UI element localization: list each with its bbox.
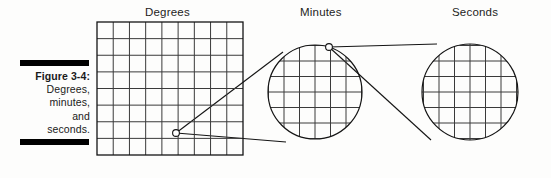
- figure-artwork: [0, 0, 551, 178]
- degrees-to-minutes-upper-line: [176, 52, 283, 133]
- callout-markers-group: [173, 44, 333, 137]
- degrees-to-minutes-origin-marker: [173, 130, 180, 137]
- minutes-to-seconds-origin-marker: [326, 44, 333, 51]
- figure-container: Figure 3-4: Degrees, minutes, and second…: [0, 0, 551, 178]
- callout-lines-group: [176, 44, 437, 142]
- minutes-to-seconds-upper-line: [329, 44, 437, 47]
- minutes-grid: [238, 15, 393, 170]
- degrees-grid: [97, 22, 243, 155]
- seconds-grid: [393, 15, 548, 170]
- degrees-to-minutes-lower-line: [176, 133, 286, 142]
